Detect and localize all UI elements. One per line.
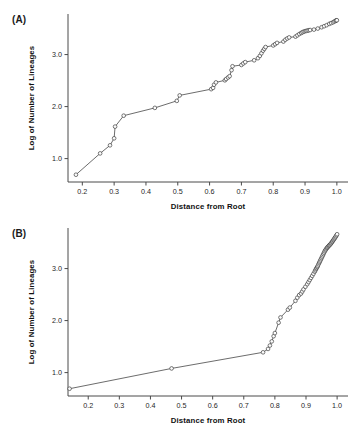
panel-b-plot: 1.02.03.00.20.30.40.50.60.70.80.91.0Dist…	[0, 214, 354, 428]
data-point-marker	[153, 106, 157, 110]
x-tick-label: 0.5	[177, 401, 187, 410]
x-tick-label: 0.7	[239, 401, 249, 410]
x-tick-label: 0.2	[83, 401, 93, 410]
data-point-marker	[335, 18, 339, 22]
data-point-marker	[108, 143, 112, 147]
data-point-marker	[113, 125, 117, 129]
data-point-marker	[170, 367, 174, 371]
data-point-marker	[270, 340, 274, 344]
data-point-marker	[214, 81, 218, 85]
data-point-marker	[175, 99, 179, 103]
panel-b: (B) 1.02.03.00.20.30.40.50.60.70.80.91.0…	[0, 214, 354, 428]
y-tick-label: 1.0	[52, 368, 62, 377]
x-tick-label: 1.0	[332, 187, 342, 196]
data-point-marker	[178, 94, 182, 98]
y-tick-label: 3.0	[52, 264, 62, 273]
x-axis-title: Distance from Root	[171, 416, 246, 425]
data-point-marker	[273, 331, 277, 335]
panel-a: (A) 1.02.03.00.20.30.40.50.60.70.80.91.0…	[0, 0, 354, 214]
data-point-marker	[308, 28, 312, 32]
y-axis-title: Log of Number of Lineages	[27, 259, 36, 364]
data-point-marker	[112, 136, 116, 140]
x-tick-label: 0.4	[145, 401, 155, 410]
data-point-marker	[230, 68, 234, 72]
x-tick-label: 1.0	[332, 401, 342, 410]
y-tick-label: 2.0	[52, 316, 62, 325]
data-point-marker	[335, 232, 339, 236]
data-point-marker	[279, 316, 283, 320]
x-axis-title: Distance from Root	[171, 202, 246, 211]
data-point-marker	[266, 347, 270, 351]
data-line	[70, 234, 338, 388]
x-tick-label: 0.2	[77, 187, 87, 196]
x-tick-label: 0.6	[208, 401, 218, 410]
x-tick-label: 0.9	[301, 401, 311, 410]
x-tick-label: 0.8	[268, 187, 278, 196]
data-point-marker	[228, 74, 232, 78]
lineage-through-time-figure: (A) 1.02.03.00.20.30.40.50.60.70.80.91.0…	[0, 0, 354, 428]
data-point-marker	[261, 350, 265, 354]
data-point-marker	[98, 152, 102, 156]
data-point-marker	[122, 114, 126, 118]
data-point-marker	[264, 45, 268, 49]
data-point-marker	[287, 36, 291, 40]
data-point-marker	[252, 58, 256, 62]
y-tick-label: 1.0	[52, 154, 62, 163]
data-point-marker	[243, 60, 247, 64]
data-point-marker	[268, 344, 272, 348]
x-tick-label: 0.4	[141, 187, 151, 196]
data-point-marker	[316, 27, 320, 31]
x-tick-label: 0.9	[300, 187, 310, 196]
y-tick-label: 2.0	[52, 102, 62, 111]
y-axis-title: Log of Number of Lineages	[27, 45, 36, 150]
x-tick-label: 0.5	[173, 187, 183, 196]
data-point-marker	[277, 321, 281, 325]
data-point-marker	[275, 41, 279, 45]
x-tick-label: 0.8	[270, 401, 280, 410]
data-point-marker	[74, 173, 78, 177]
panel-a-plot: 1.02.03.00.20.30.40.50.60.70.80.91.0Dist…	[0, 0, 354, 214]
x-tick-label: 0.6	[205, 187, 215, 196]
x-tick-label: 0.3	[114, 401, 124, 410]
data-point-marker	[231, 64, 235, 68]
data-point-marker	[68, 387, 72, 391]
x-tick-label: 0.3	[109, 187, 119, 196]
y-tick-label: 3.0	[52, 50, 62, 59]
x-tick-label: 0.7	[236, 187, 246, 196]
data-line	[76, 20, 337, 174]
data-point-marker	[288, 306, 292, 310]
data-point-marker	[312, 28, 316, 32]
